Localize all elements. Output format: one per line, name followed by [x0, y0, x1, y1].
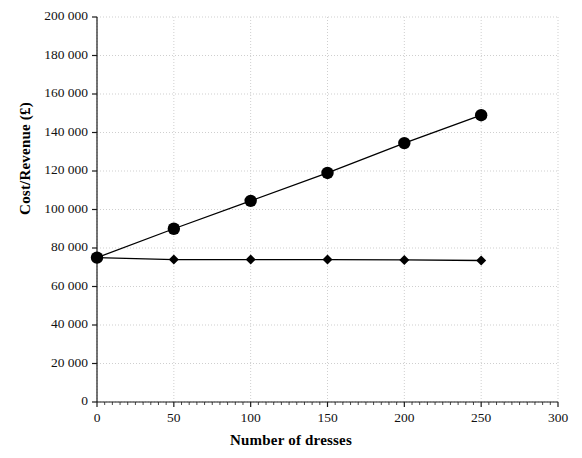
y-axis-tick-label: 60 000: [51, 278, 88, 294]
x-axis-tick-label: 0: [67, 410, 127, 426]
y-axis-tick-label: 20 000: [51, 355, 88, 371]
x-axis-tick-label: 50: [144, 410, 204, 426]
data-point-cost: [246, 255, 256, 265]
data-point-cost: [169, 255, 179, 265]
data-point-cost: [476, 256, 486, 266]
x-axis-title: Number of dresses: [0, 432, 582, 449]
y-axis-tick-label: 160 000: [44, 85, 88, 101]
chart-container: Cost/Revenue (£) Number of dresses 020 0…: [0, 0, 582, 458]
data-point-cost: [399, 255, 409, 265]
y-axis-tick-label: 140 000: [44, 124, 88, 140]
x-axis-tick-label: 150: [298, 410, 358, 426]
y-axis-tick-label: 100 000: [44, 201, 88, 217]
data-point-revenue: [321, 167, 333, 179]
series-line-cost: [97, 258, 481, 261]
data-point-revenue: [168, 223, 180, 235]
y-axis-tick-label: 0: [81, 393, 88, 409]
y-axis-tick-label: 120 000: [44, 162, 88, 178]
data-point-cost: [323, 255, 333, 265]
x-axis-tick-label: 200: [374, 410, 434, 426]
series-line-revenue: [97, 115, 481, 257]
y-axis-tick-label: 80 000: [51, 239, 88, 255]
y-axis-tick-label: 40 000: [51, 316, 88, 332]
data-point-revenue: [475, 109, 487, 121]
y-axis-tick-label: 200 000: [44, 8, 88, 24]
x-axis-tick-label: 100: [221, 410, 281, 426]
y-axis-tick-label: 180 000: [44, 47, 88, 63]
data-point-revenue: [244, 195, 256, 207]
chart-plot-area: [0, 0, 582, 458]
y-axis-title: Cost/Revenue (£): [17, 79, 34, 239]
x-axis-tick-label: 250: [451, 410, 511, 426]
x-axis-tick-label: 300: [528, 410, 582, 426]
data-point-revenue: [398, 137, 410, 149]
